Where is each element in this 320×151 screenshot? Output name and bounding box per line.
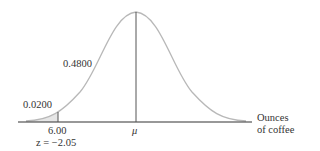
mean-tick-label: μ: [132, 126, 137, 137]
tail-area-label: 0.0200: [23, 100, 52, 111]
x-axis-label-line2: of coffee: [257, 125, 294, 136]
middle-area-label: 0.4800: [63, 59, 92, 70]
z-score-label: z = −2.05: [36, 138, 76, 149]
x-axis-label-line1: Ounces: [257, 113, 289, 124]
cutoff-tick-label: 6.00: [48, 126, 66, 137]
